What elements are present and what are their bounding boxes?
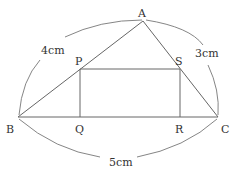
label-p: P (75, 55, 83, 68)
label-c: C (221, 123, 229, 136)
label-a: A (137, 7, 147, 20)
label-q: Q (75, 123, 84, 136)
label-s: S (175, 55, 183, 68)
label-r: R (175, 123, 184, 136)
arc-bc-left (19, 119, 100, 157)
arc-ac-upper (146, 20, 203, 45)
triangle-diagram: A B C P S Q R 4cm 3cm 5cm (0, 0, 233, 173)
arc-ab-lower (19, 60, 40, 115)
arc-ac-lower (208, 65, 218, 115)
label-ac-length: 3cm (195, 47, 219, 60)
label-b: B (6, 123, 14, 136)
label-ab-length: 4cm (41, 44, 65, 57)
arc-ab-upper (65, 20, 142, 37)
label-bc-length: 5cm (109, 156, 133, 169)
